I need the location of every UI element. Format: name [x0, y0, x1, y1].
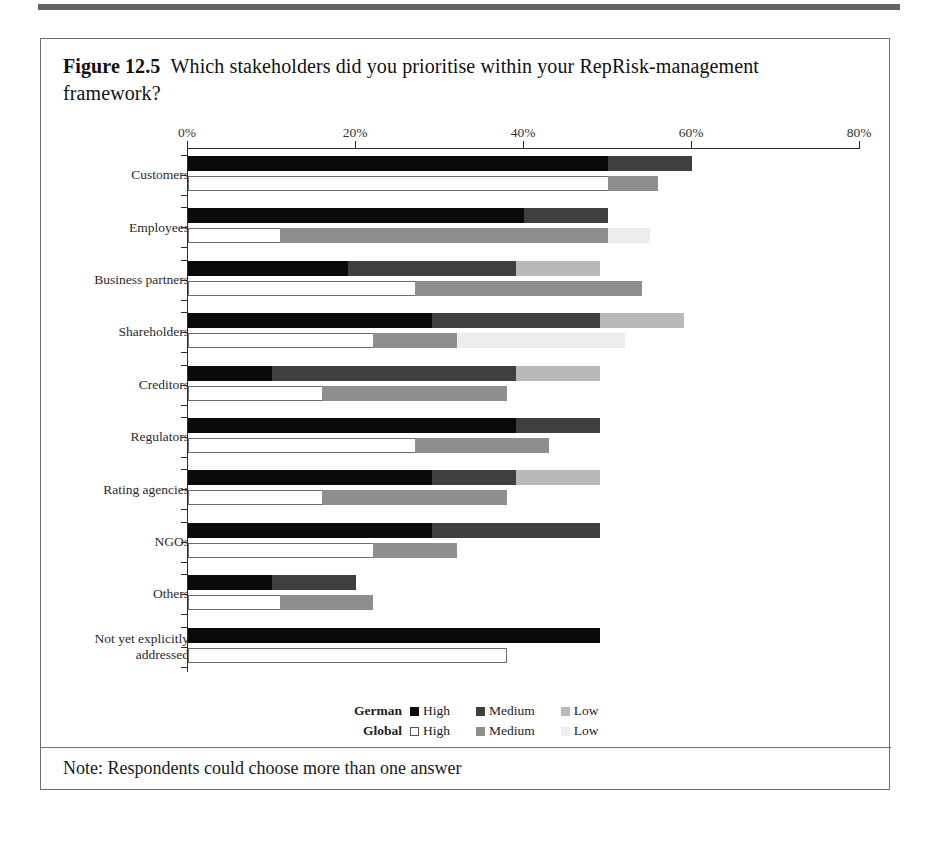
y-axis-tick: [181, 627, 188, 628]
category-label: Rating agencies: [29, 482, 189, 498]
bar-german: [188, 208, 608, 223]
bar-segment: [188, 386, 322, 401]
legend-swatch-icon: [561, 707, 570, 716]
bar-segment: [188, 333, 373, 348]
legend-swatch-icon: [476, 707, 485, 716]
bar-segment: [188, 543, 373, 558]
y-axis-tick: [181, 227, 188, 228]
y-axis-tick: [181, 155, 188, 156]
bar-global: [188, 438, 549, 453]
legend-swatch-icon: [410, 727, 419, 736]
page-root: Figure 12.5 Which stakeholders did you p…: [0, 0, 932, 855]
y-axis-tick: [181, 365, 188, 366]
x-axis-tick-label: 20%: [343, 125, 368, 141]
bar-segment: [188, 418, 516, 433]
y-axis-tick: [181, 647, 188, 648]
y-axis-tick: [181, 352, 188, 353]
bar-german: [188, 366, 600, 381]
y-axis-tick: [181, 260, 188, 261]
x-axis-tick-labels: 0%20%40%60%80%: [41, 125, 891, 147]
category-label: Shareholders: [29, 324, 189, 340]
page-top-rule: [38, 4, 900, 10]
y-axis-tick: [181, 300, 188, 301]
bar-global: [188, 228, 650, 243]
legend-swatch-icon: [476, 727, 485, 736]
bar-segment: [188, 366, 272, 381]
y-axis-tick: [181, 574, 188, 575]
bar-segment: [188, 648, 507, 663]
bar-german: [188, 313, 684, 328]
bar-german: [188, 156, 692, 171]
chart-category-row: Shareholders: [41, 306, 891, 358]
chart-category-row: Not yet explicitly addressed: [41, 621, 891, 673]
chart-category-row: Customers: [41, 149, 891, 201]
legend-item-label: High: [423, 723, 450, 739]
bar-segment: [608, 156, 692, 171]
bar-segment: [516, 366, 600, 381]
y-axis-tick: [181, 489, 188, 490]
y-axis-tick: [181, 247, 188, 248]
category-label: Business partners: [29, 272, 189, 288]
bar-segment: [432, 523, 600, 538]
legend-row: GermanHighMediumLow: [41, 701, 891, 721]
bar-segment: [188, 208, 524, 223]
bar-segment: [272, 366, 516, 381]
legend-item-label: High: [423, 703, 450, 719]
chart-plot-area: 0%20%40%60%80% CustomersEmployeesBusines…: [41, 125, 891, 695]
figure-note: Note: Respondents could choose more than…: [63, 758, 461, 779]
bar-segment: [373, 333, 457, 348]
chart-category-row: Business partners: [41, 254, 891, 306]
bar-segment: [415, 438, 549, 453]
y-axis-tick: [181, 457, 188, 458]
y-axis-tick: [181, 437, 188, 438]
legend-swatch-icon: [561, 727, 570, 736]
figure-caption: Figure 12.5 Which stakeholders did you p…: [63, 53, 853, 107]
bar-german: [188, 575, 356, 590]
bar-segment: [188, 523, 432, 538]
x-axis-tick: [355, 141, 356, 149]
chart-category-row: Regulators: [41, 411, 891, 463]
x-axis-tick-label: 80%: [847, 125, 872, 141]
bar-segment: [322, 490, 507, 505]
y-axis-tick: [181, 332, 188, 333]
x-axis-tick-label: 60%: [679, 125, 704, 141]
bar-global: [188, 386, 507, 401]
y-axis-tick: [181, 522, 188, 523]
bar-global: [188, 281, 642, 296]
bar-global: [188, 333, 625, 348]
category-label: Others: [29, 586, 189, 602]
bar-segment: [272, 575, 356, 590]
y-axis-tick: [181, 195, 188, 196]
y-axis-tick: [181, 385, 188, 386]
bar-global: [188, 490, 507, 505]
x-axis-tick: [691, 141, 692, 149]
bar-segment: [188, 490, 322, 505]
bar-segment: [280, 228, 608, 243]
y-axis-tick: [181, 469, 188, 470]
category-label: Employees: [29, 220, 189, 236]
legend-swatch-icon: [410, 707, 419, 716]
bar-segment: [280, 595, 372, 610]
y-axis-tick: [181, 405, 188, 406]
category-label: Customers: [29, 167, 189, 183]
bar-segment: [516, 261, 600, 276]
x-axis-tick: [859, 141, 860, 149]
bar-german: [188, 261, 600, 276]
y-axis-tick: [181, 562, 188, 563]
bar-segment: [188, 595, 280, 610]
bar-segment: [600, 313, 684, 328]
bar-segment: [457, 333, 625, 348]
bar-segment: [516, 418, 600, 433]
x-axis-tick: [523, 141, 524, 149]
bar-segment: [348, 261, 516, 276]
y-axis-tick: [181, 667, 188, 668]
figure-container: Figure 12.5 Which stakeholders did you p…: [40, 38, 890, 790]
category-label: Not yet explicitly addressed: [29, 631, 189, 663]
bar-german: [188, 523, 600, 538]
bar-segment: [516, 470, 600, 485]
bar-segment: [188, 470, 432, 485]
bar-segment: [188, 438, 415, 453]
chart-category-row: Others: [41, 568, 891, 620]
y-axis-tick: [181, 614, 188, 615]
bar-global: [188, 543, 457, 558]
